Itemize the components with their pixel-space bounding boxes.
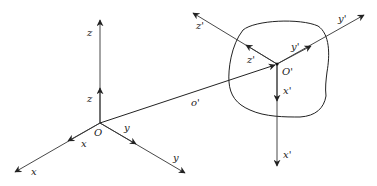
body-frame <box>193 13 364 166</box>
label-x-prime-axis: x' <box>283 149 291 160</box>
fixed-frame <box>15 20 185 173</box>
label-origin-o-prime: O' <box>282 66 293 77</box>
origin-o-prime-dot <box>275 62 278 65</box>
label-x-unit: x <box>81 138 87 149</box>
label-y-prime-unit: y' <box>290 41 299 52</box>
label-x-axis: x <box>31 166 37 177</box>
frames-diagram: z z O x x y y o' z' z' y' y' O' x' x' <box>0 0 377 186</box>
label-y-axis: y <box>172 152 179 163</box>
label-x-prime-unit: x' <box>283 85 291 96</box>
label-o-prime-vector: o' <box>191 97 200 108</box>
rigid-body-outline <box>229 21 329 117</box>
y-unit-vector <box>100 123 136 144</box>
label-origin-o: O <box>94 127 102 138</box>
label-y-prime-axis: y' <box>337 13 346 24</box>
position-vector-o-prime <box>100 65 275 123</box>
label-z-prime-axis: z' <box>195 20 204 31</box>
label-y-unit: y <box>123 122 130 133</box>
label-z-unit: z <box>86 93 93 104</box>
label-z-prime-unit: z' <box>246 54 255 65</box>
label-z-axis: z <box>86 27 93 38</box>
